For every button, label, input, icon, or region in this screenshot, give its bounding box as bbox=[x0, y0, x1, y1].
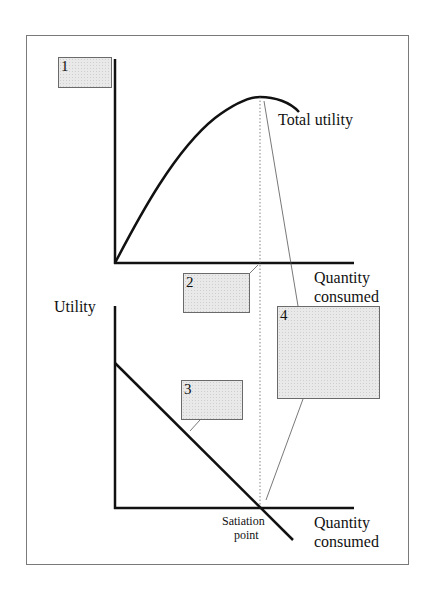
box-number-2: 2 bbox=[186, 274, 194, 290]
lower-x-axis-label-line2: consumed bbox=[314, 532, 379, 552]
leader-line-box3 bbox=[190, 420, 200, 431]
satiation-point-label-line2: point bbox=[234, 529, 259, 542]
blank-box-3: 3 bbox=[181, 380, 243, 420]
diagram-canvas: 1 2 3 4 Total utility Quantity consumed … bbox=[0, 0, 430, 593]
upper-x-axis-label-line2: consumed bbox=[314, 287, 379, 307]
blank-box-1: 1 bbox=[58, 57, 112, 88]
blank-box-2: 2 bbox=[183, 273, 250, 313]
lower-y-axis-label: Utility bbox=[54, 297, 96, 317]
lower-x-axis-label-line1: Quantity bbox=[314, 513, 370, 533]
upper-x-axis-label-line1: Quantity bbox=[314, 268, 370, 288]
box-number-3: 3 bbox=[184, 381, 192, 397]
total-utility-label: Total utility bbox=[278, 110, 353, 130]
satiation-point-label-line1: Satiation bbox=[222, 515, 265, 528]
box-number-1: 1 bbox=[61, 58, 69, 74]
box-number-4: 4 bbox=[280, 307, 288, 323]
leader-line-box2 bbox=[250, 265, 258, 273]
leader-line-box4-bottom bbox=[266, 399, 303, 500]
total-utility-curve bbox=[115, 97, 299, 263]
leader-line-box4-top bbox=[264, 101, 298, 306]
blank-box-4: 4 bbox=[277, 306, 380, 399]
